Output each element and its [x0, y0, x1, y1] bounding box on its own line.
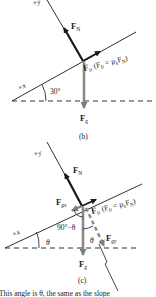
angle-arc-theta-gy — [83, 226, 93, 229]
x-axis-label: +x — [16, 81, 28, 93]
friction-force-label: Ffr(Ffr = μkFN) — [82, 52, 129, 74]
incline-x-axis — [12, 32, 136, 101]
incline-x-axis — [5, 184, 142, 248]
annotation-pointer-line — [99, 244, 118, 291]
gravity-force-label: Fg — [80, 113, 88, 124]
caption-c: (c) — [78, 276, 87, 285]
gravity-x-component-label: Fgx — [56, 197, 67, 208]
diagram-b: +y +x 30° FN Ffr(Ffr = μkFN) Fg (b) — [12, 0, 152, 141]
normal-force-label: FN — [73, 165, 82, 176]
normal-force-label: FN — [71, 21, 80, 32]
friction-force-label: Ffr(Ffr = μkFN) — [90, 195, 137, 217]
angle-label-30: 30° — [50, 87, 61, 96]
normal-force-arrow — [65, 174, 82, 206]
diagram-c: +y +x θ 90°−θ θ FN Fgx Ffr(Ffr = μkFN) F… — [0, 142, 142, 297]
angle-arc-30 — [42, 85, 46, 102]
x-axis-label: +x — [10, 227, 22, 239]
angle-label-theta-gy: θ — [90, 236, 94, 245]
gravity-y-component-label: Fgy — [106, 233, 117, 244]
gravity-x-component-arrow — [72, 206, 82, 211]
normal-force-arrow — [64, 28, 83, 61]
angle-label-complement: 90°−θ — [57, 223, 76, 232]
angle-label-theta-incline: θ — [46, 238, 50, 247]
angle-arc-theta-incline — [37, 232, 40, 248]
free-body-diagrams: +y +x 30° FN Ffr(Ffr = μkFN) Fg (b) — [0, 0, 156, 297]
caption-b: (b) — [79, 132, 88, 141]
y-axis-label: +y — [31, 0, 42, 8]
y-axis-label: +y — [32, 148, 43, 159]
gravity-force-label: Fg — [79, 259, 87, 270]
angle-annotation-text: This angle is θ, the same as the slope — [0, 289, 111, 297]
